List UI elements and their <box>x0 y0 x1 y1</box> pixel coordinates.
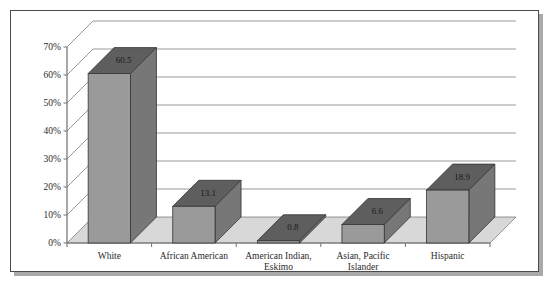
bar-column[interactable]: 60.5 <box>88 48 156 243</box>
bar-value-label: 0.8 <box>287 222 299 232</box>
bar-value-label: 6.6 <box>372 206 384 216</box>
x-axis-category-label: Islander <box>348 262 379 272</box>
x-axis-category-label: American Indian, <box>245 251 311 261</box>
chart-area: 0%10%20%30%40%50%60%70%60.5White13.1Afri… <box>11 11 540 273</box>
x-axis-category-label: Eskimo <box>264 262 293 272</box>
x-axis-category-label: White <box>98 251 121 261</box>
bar-value-label: 60.5 <box>116 55 132 65</box>
x-axis-category-label: African American <box>160 251 229 261</box>
y-axis-tick-label: 50% <box>44 98 62 108</box>
x-axis-category-label: Hispanic <box>431 251 465 261</box>
bar-value-label: 18.9 <box>454 172 470 182</box>
bar-chart-3d: 0%10%20%30%40%50%60%70%60.5White13.1Afri… <box>11 11 540 273</box>
bar-front-face <box>342 225 384 243</box>
y-axis-tick-label: 10% <box>44 210 62 220</box>
bar-front-face <box>173 206 215 243</box>
y-axis-tick-label: 40% <box>44 126 62 136</box>
y-axis-tick-label: 30% <box>44 154 62 164</box>
y-axis-tick-label: 0% <box>48 238 61 248</box>
chart-plate: 0%10%20%30%40%50%60%70%60.5White13.1Afri… <box>10 10 539 272</box>
y-axis-tick-label: 20% <box>44 182 62 192</box>
gridline-depth-connector <box>67 49 93 75</box>
bar-front-face <box>427 190 469 243</box>
gridline-depth-connector <box>67 21 93 47</box>
y-axis-tick-label: 70% <box>44 42 62 52</box>
bar-front-face <box>257 241 299 243</box>
bar-front-face <box>88 74 130 243</box>
bar-side-face <box>130 48 156 243</box>
y-axis-tick-label: 60% <box>44 70 62 80</box>
x-axis-category-label: Asian, Pacific <box>336 251 389 261</box>
bar-value-label: 13.1 <box>200 188 216 198</box>
figure-root: 0%10%20%30%40%50%60%70%60.5White13.1Afri… <box>0 0 558 296</box>
